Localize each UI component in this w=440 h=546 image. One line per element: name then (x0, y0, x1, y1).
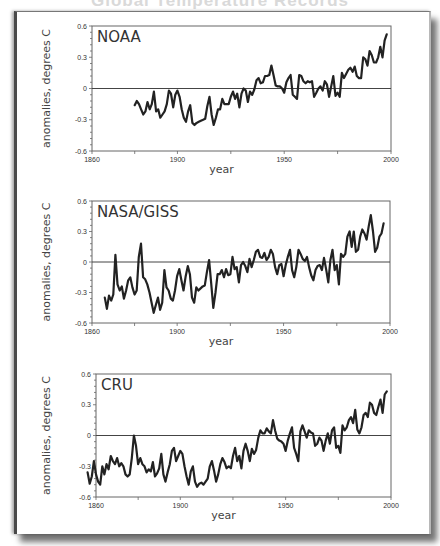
x-tick-label: 1860 (84, 328, 100, 335)
chart-panel-noaa: -0.6-0.300.30.61860190019502000yearanoma… (40, 23, 399, 177)
x-axis-label: year (209, 335, 234, 348)
anomaly-series-line (88, 391, 387, 486)
x-tick-label: 1950 (278, 502, 294, 509)
x-tick-label: 2000 (383, 156, 399, 163)
x-tick-label: 1950 (276, 156, 292, 163)
chart-panel-nasa-giss: -0.6-0.300.30.61860190019502000yearanoma… (40, 198, 398, 349)
panel-title: CRU (101, 376, 133, 394)
y-tick-label: 0.6 (77, 198, 87, 205)
y-tick-label: 0 (83, 259, 87, 266)
chart-panel-cru: -0.6-0.300.30.61860190019502000yearanoma… (40, 371, 399, 523)
y-axis-label: anomalies, degrees C (40, 202, 53, 321)
x-tick-label: 1900 (169, 328, 185, 335)
anomaly-series-line (135, 34, 387, 125)
x-tick-label: 2000 (382, 328, 398, 335)
y-tick-label: 0.3 (77, 228, 87, 235)
y-axis-label: anomalies, degrees C (40, 376, 53, 495)
y-tick-label: 0.3 (81, 401, 91, 408)
x-tick-label: 1860 (88, 502, 104, 509)
y-tick-label: -0.3 (75, 116, 87, 123)
x-tick-label: 1950 (276, 328, 292, 335)
y-axis-label: anomalies, degrees C (40, 29, 53, 148)
panel-title: NOAA (97, 28, 141, 46)
charts-canvas: -0.6-0.300.30.61860190019502000yearanoma… (0, 0, 440, 546)
y-tick-label: 0 (83, 85, 87, 92)
y-tick-label: 0.3 (77, 54, 87, 61)
y-tick-label: -0.3 (75, 289, 87, 296)
y-tick-label: -0.3 (79, 463, 91, 470)
anomaly-series-line (105, 215, 384, 313)
y-tick-label: 0.6 (77, 23, 87, 30)
x-tick-label: 1900 (170, 156, 186, 163)
y-tick-label: -0.6 (79, 494, 91, 501)
y-tick-label: 0.6 (81, 371, 91, 378)
x-axis-label: year (211, 509, 236, 522)
y-tick-label: -0.6 (75, 148, 87, 155)
x-axis-label: year (209, 163, 234, 176)
y-tick-label: -0.6 (75, 320, 87, 327)
x-tick-label: 2000 (383, 502, 399, 509)
x-tick-label: 1860 (84, 156, 100, 163)
y-tick-label: 0 (87, 432, 91, 439)
panel-title: NASA/GISS (97, 203, 179, 221)
x-tick-label: 1900 (172, 502, 188, 509)
